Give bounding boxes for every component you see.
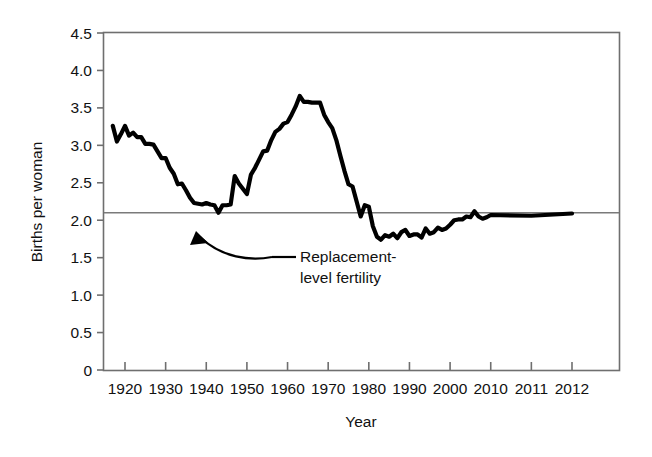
x-tick-label: 2000 <box>433 380 468 397</box>
y-axis-ticks: 00.51.01.52.02.53.03.54.04.5 <box>70 25 104 379</box>
y-tick-label: 2.5 <box>70 174 92 191</box>
x-tick-label: 1920 <box>108 380 143 397</box>
y-tick-label: 1.0 <box>70 287 92 304</box>
fertility-rate-chart-figure: 00.51.01.52.02.53.03.54.04.5 19201930194… <box>0 0 652 457</box>
y-tick-label: 2.0 <box>70 212 92 229</box>
y-tick-label: 0.5 <box>70 324 92 341</box>
y-axis-title: Births per woman <box>28 142 45 263</box>
plot-frame <box>104 33 620 371</box>
y-tick-label: 4.0 <box>70 62 92 79</box>
y-tick-label: 4.5 <box>70 25 92 42</box>
x-axis-title: Year <box>345 413 376 430</box>
x-tick-label: 1960 <box>270 380 305 397</box>
x-tick-label: 1980 <box>352 380 387 397</box>
annotation-label-line2: level fertility <box>300 269 381 286</box>
y-tick-label: 3.0 <box>70 137 92 154</box>
y-tick-label: 0 <box>83 362 92 379</box>
x-tick-label: 1970 <box>311 380 346 397</box>
x-tick-label: 1940 <box>189 380 224 397</box>
x-tick-label: 1990 <box>392 380 427 397</box>
chart-canvas: 00.51.01.52.02.53.03.54.04.5 19201930194… <box>0 0 652 457</box>
x-tick-label: 2012 <box>555 380 589 397</box>
y-tick-label: 3.5 <box>70 99 92 116</box>
annotation-label-line1: Replacement- <box>300 248 397 265</box>
x-tick-label: 2011 <box>515 380 548 397</box>
x-tick-label: 1930 <box>148 380 183 397</box>
x-tick-label: 1950 <box>230 380 265 397</box>
x-tick-label: 2010 <box>473 380 508 397</box>
y-tick-label: 1.5 <box>70 249 92 266</box>
